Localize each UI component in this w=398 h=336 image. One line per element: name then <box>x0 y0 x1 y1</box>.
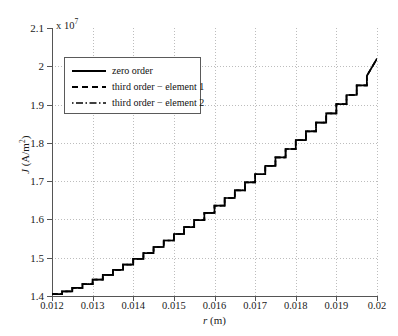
x-axis-tick-label: 0.018 <box>274 300 318 311</box>
y-axis-label: J (A/m2) <box>17 115 31 195</box>
legend-box: zero order third order − element 1 third… <box>64 57 201 114</box>
y-axis-tick-label: 1.4 <box>4 291 44 302</box>
x-axis-label-symbol: r <box>203 314 207 326</box>
y-axis-exponent-power: 7 <box>74 17 78 26</box>
legend-item-third-order-element-1: third order − element 1 <box>70 79 196 95</box>
y-axis-label-symbol: J <box>19 169 31 174</box>
grid-line-vertical <box>377 28 378 296</box>
x-axis-tick-label: 0.019 <box>314 300 358 311</box>
y-axis-tick-label: 1.9 <box>4 100 44 111</box>
x-axis-tick-label: 0.016 <box>193 300 237 311</box>
legend-label-zero-order: zero order <box>108 66 153 76</box>
x-axis-tick-label: 0.017 <box>233 300 277 311</box>
x-axis-label: r (m) <box>52 314 377 326</box>
x-axis-tick-label: 0.014 <box>111 300 155 311</box>
legend-line-sample-dashdot <box>70 98 108 108</box>
x-axis-tick-label: 0.013 <box>71 300 115 311</box>
y-axis-label-unit: (A/m2) <box>19 136 31 167</box>
x-axis-tick-label: 0.015 <box>152 300 196 311</box>
x-axis-label-unit: (m) <box>210 314 226 326</box>
x-axis-tick-label: 0.02 <box>355 300 398 311</box>
figure-canvas: 0.0120.0130.0140.0150.0160.0170.0180.019… <box>0 0 398 336</box>
legend-item-zero-order: zero order <box>70 63 196 79</box>
legend-line-sample-solid <box>70 66 108 76</box>
legend-line-sample-dashed <box>70 82 108 92</box>
legend-label-third-order-element-2: third order − element 2 <box>108 98 204 108</box>
y-axis-tick-label: 1.6 <box>4 214 44 225</box>
y-axis-tick-label: 2 <box>4 61 44 72</box>
y-axis-tick-label: 1.5 <box>4 253 44 264</box>
y-axis-tick-label: 2.1 <box>4 23 44 34</box>
x-axis-line <box>52 296 377 297</box>
legend-label-third-order-element-1: third order − element 1 <box>108 82 204 92</box>
legend-item-third-order-element-2: third order − element 2 <box>70 95 196 111</box>
